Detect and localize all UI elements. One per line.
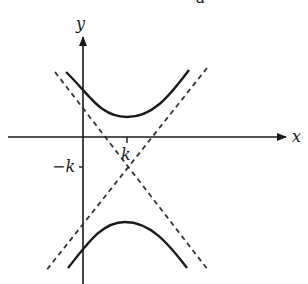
y-axis-label: y xyxy=(75,14,86,33)
hyperbola-lower-branch xyxy=(68,222,187,268)
y-tick-label-minus-k: −k xyxy=(52,157,75,176)
x-axis-label: x xyxy=(292,127,301,146)
asymptote-descending xyxy=(55,72,208,270)
hyperbola-diagram: a x y k −k xyxy=(0,0,308,284)
x-tick-label-k: k xyxy=(121,145,131,164)
top-fragment-label: a xyxy=(196,0,206,7)
